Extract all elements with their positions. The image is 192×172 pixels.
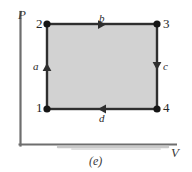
vertex-label-2: 2 (36, 17, 43, 30)
vertex-dot-3 (153, 20, 160, 27)
process-label-b: b (99, 13, 105, 24)
figure-caption: (e) (89, 155, 102, 167)
pv-diagram-figure: P V 2 3 1 4 a b c d (e) (0, 0, 192, 172)
vertex-label-3: 3 (163, 17, 170, 30)
vertex-dot-4 (153, 105, 160, 112)
process-label-c: c (163, 61, 168, 72)
vertex-dot-1 (43, 105, 50, 112)
x-axis-label: V (171, 146, 179, 159)
cycle-area-fill (47, 24, 157, 109)
vertex-label-4: 4 (163, 101, 170, 114)
vertex-dot-2 (43, 20, 50, 27)
y-axis-label: P (18, 8, 26, 21)
process-label-d: d (99, 113, 105, 124)
process-label-a: a (33, 61, 39, 72)
axis-shadow (58, 147, 168, 149)
vertex-label-1: 1 (36, 101, 43, 114)
